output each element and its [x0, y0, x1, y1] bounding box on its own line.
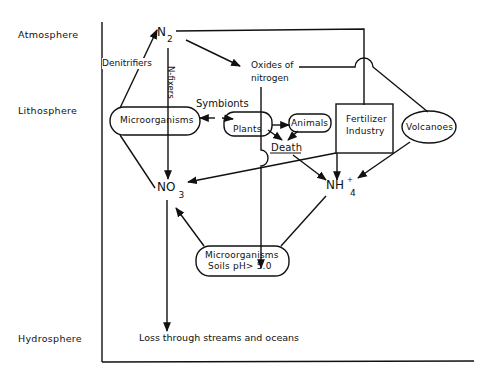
n2-to-oxides-arrow	[186, 40, 240, 66]
hydrosphere-label: Hydrosphere	[18, 333, 82, 344]
lithosphere-label: Lithosphere	[18, 105, 77, 116]
nh4-node: NH+4	[326, 180, 356, 193]
nh4-to-soil-line	[281, 196, 326, 246]
animals-label: Animals	[291, 118, 328, 129]
no3-to-microorganisms-line	[120, 135, 155, 188]
fertilizer-line1: Fertilizer	[346, 114, 387, 125]
volcanoes-to-nh4-arrow	[358, 142, 410, 178]
plants-label: Plants	[233, 124, 262, 135]
oxides-line1: Oxides of	[251, 60, 293, 71]
no3-main: NO	[157, 180, 175, 194]
denitrifiers-label: Denitrifiers	[102, 58, 152, 69]
soil-microorganisms-line1: Microorganisms	[205, 250, 279, 261]
nh4-sub: 4	[350, 188, 356, 198]
nitrogen-cycle-diagram: Atmosphere Lithosphere Hydrosphere N2 De…	[0, 0, 485, 379]
atmosphere-label: Atmosphere	[18, 29, 79, 40]
soil-microorganisms-line2: Soils pH> 5.0	[208, 261, 272, 272]
nh4-main: NH	[326, 178, 344, 192]
no3-sub: 3	[178, 190, 184, 200]
oxides-line2: nitrogen	[251, 73, 289, 84]
death-label: Death	[271, 142, 302, 153]
fertilizer-line2: Industry	[346, 126, 385, 137]
n-fixers-label: N-fixers	[166, 66, 176, 99]
oxides-to-soil-microorganisms-arrow	[261, 87, 268, 268]
soil-to-no3-arrow	[176, 208, 204, 246]
nh4-sup: +	[347, 176, 353, 184]
denitrifiers-arrow	[120, 30, 157, 108]
bottom-axis	[102, 361, 474, 362]
microorganisms-label: Microorganisms	[120, 115, 194, 126]
loss-label: Loss through streams and oceans	[139, 332, 299, 343]
n2-node: N2	[157, 27, 172, 39]
volcanoes-label: Volcanoes	[406, 122, 453, 133]
n2-main: N	[157, 25, 166, 39]
diagram-lines	[0, 0, 485, 379]
symbionts-arrow-right	[222, 118, 233, 119]
no3-node: NO3	[157, 182, 181, 194]
fertilizer-to-no3-arrow	[188, 153, 336, 182]
n2-sub: 2	[167, 34, 173, 44]
symbionts-label: Symbionts	[196, 98, 249, 109]
